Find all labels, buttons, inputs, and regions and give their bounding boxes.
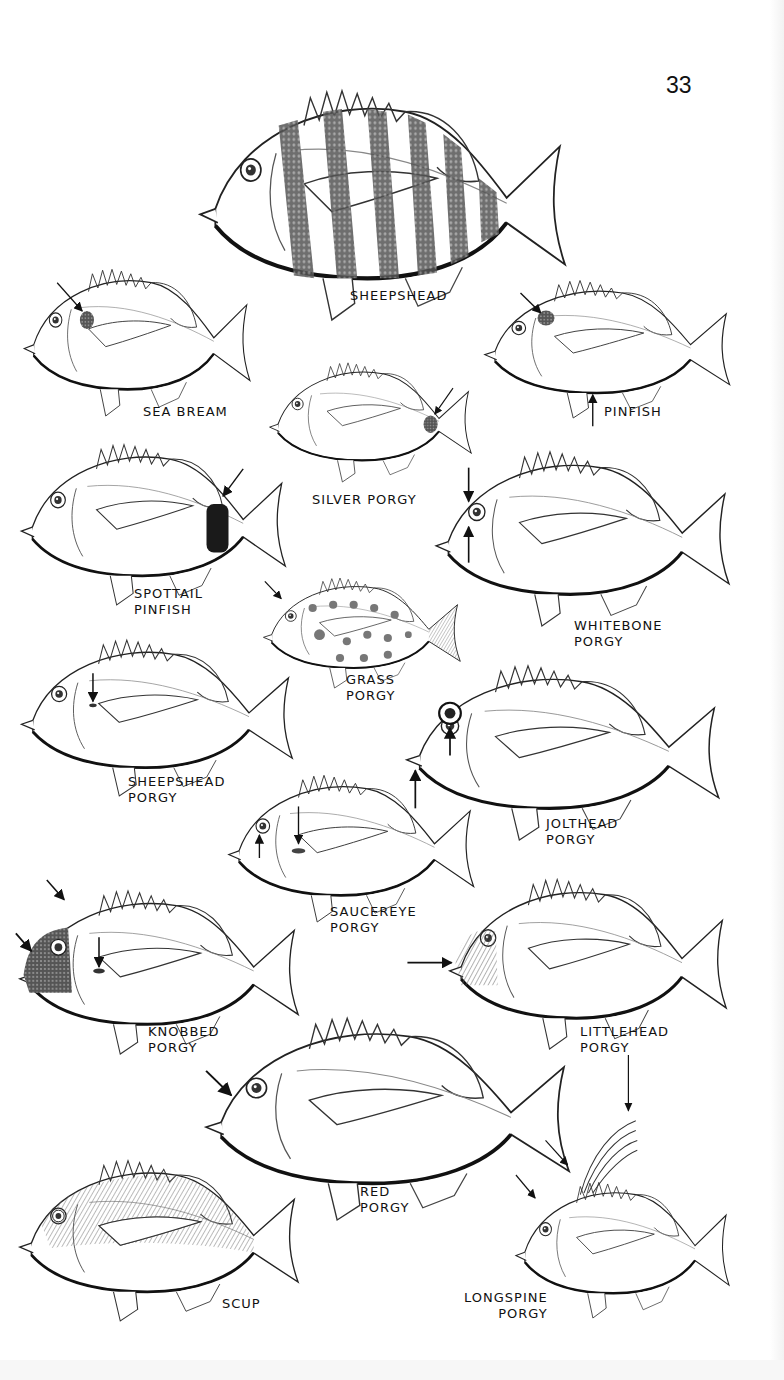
scup-illustration <box>12 1146 302 1321</box>
fish-pinfish <box>478 268 733 418</box>
arrow-icon <box>206 1071 231 1095</box>
label-sheepshead-porgy: SHEEPSHEAD PORGY <box>128 774 225 806</box>
page-edge-shadow <box>770 0 784 1380</box>
label-littlehead-porgy: LITTLEHEAD PORGY <box>580 1024 669 1056</box>
page-number: 33 <box>666 72 692 99</box>
label-sea-bream: SEA BREAM <box>143 404 228 420</box>
label-jolthead-porgy: JOLTHEAD PORGY <box>546 816 618 848</box>
label-sheepshead: SHEEPSHEAD <box>350 288 447 304</box>
label-saucereye-porgy: SAUCEREYE PORGY <box>330 904 417 936</box>
spottail-pinfish-illustration <box>14 430 289 605</box>
label-pinfish: PINFISH <box>604 404 662 420</box>
sea-bream-illustration <box>18 256 253 416</box>
fish-scup <box>12 1146 302 1321</box>
arrow-icon <box>516 1175 535 1198</box>
label-silver-porgy: SILVER PORGY <box>312 492 417 508</box>
fish-whitebone-porgy <box>428 436 733 626</box>
arrow-icon <box>16 933 31 951</box>
arrow-icon <box>47 880 64 900</box>
label-whitebone-porgy: WHITEBONE PORGY <box>574 618 662 650</box>
whitebone-porgy-illustration <box>428 436 733 626</box>
label-red-porgy: RED PORGY <box>360 1184 409 1216</box>
arrow-icon <box>223 469 243 496</box>
pinfish-illustration <box>478 268 733 418</box>
fish-sea-bream <box>18 256 253 416</box>
fish-spottail-pinfish <box>14 430 289 605</box>
label-scup: SCUP <box>222 1296 261 1312</box>
arrow-icon <box>265 581 281 598</box>
label-grass-porgy: GRASS PORGY <box>346 672 395 704</box>
label-spottail-pinfish: SPOTTAIL PINFISH <box>134 586 203 618</box>
page-bottom-margin <box>0 1360 784 1380</box>
label-longspine-porgy: LONGSPINE PORGY <box>464 1290 548 1322</box>
